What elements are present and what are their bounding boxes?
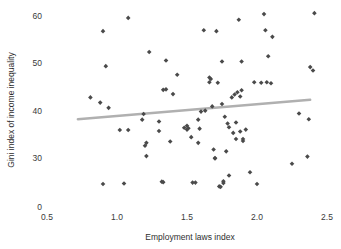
data-point — [255, 182, 260, 187]
data-point — [290, 161, 295, 166]
data-point — [118, 128, 123, 133]
data-point — [126, 128, 131, 133]
data-point — [259, 80, 264, 85]
data-point — [220, 59, 225, 64]
data-point — [311, 68, 316, 73]
x-tick-label: 1.0 — [111, 212, 123, 222]
data-point — [263, 28, 268, 33]
data-point — [126, 16, 131, 21]
data-point — [168, 139, 173, 144]
data-point — [305, 154, 310, 159]
data-points-layer — [88, 11, 317, 189]
x-axis-title: Employment laws index — [145, 232, 235, 242]
data-point — [220, 102, 225, 107]
data-point — [101, 29, 106, 34]
data-point — [197, 126, 202, 131]
data-point — [266, 54, 271, 59]
data-point — [248, 170, 253, 175]
y-tick-label: 30 — [33, 153, 43, 163]
data-point — [88, 95, 93, 100]
data-point — [157, 119, 162, 124]
y-axis-title: Gini index of income inequality — [6, 52, 16, 168]
data-point — [106, 106, 111, 111]
data-point — [244, 127, 249, 132]
data-point — [234, 120, 239, 125]
trend-line-layer — [78, 100, 310, 119]
data-point — [189, 135, 194, 140]
data-point — [171, 92, 176, 97]
data-point — [239, 59, 244, 64]
data-point — [211, 147, 216, 152]
data-point — [213, 156, 218, 161]
data-point — [196, 117, 201, 122]
x-tick-label: 2.5 — [321, 212, 333, 222]
data-point — [224, 149, 229, 154]
data-point — [98, 100, 103, 105]
data-point — [312, 11, 317, 16]
x-tick-label: 1.5 — [181, 212, 193, 222]
scatter-chart: 0.51.01.52.02.5 030405060 Employment law… — [0, 0, 341, 249]
data-point — [234, 137, 239, 142]
data-point — [308, 65, 313, 70]
data-point — [216, 80, 221, 85]
data-point — [140, 117, 145, 122]
y-tick-label: 50 — [33, 58, 43, 68]
data-point — [231, 131, 236, 136]
x-tick-label: 2.0 — [251, 212, 263, 222]
data-point — [164, 58, 169, 63]
data-point — [144, 154, 149, 159]
data-point — [202, 28, 207, 33]
data-point — [225, 121, 230, 126]
x-axis-ticks: 0.51.01.52.02.5 — [41, 212, 333, 222]
data-point — [307, 117, 312, 122]
data-point — [297, 111, 302, 116]
y-tick-label: 0 — [37, 202, 42, 212]
data-point — [238, 129, 243, 134]
data-point — [227, 125, 232, 130]
data-point — [214, 29, 219, 34]
data-point — [164, 87, 169, 92]
trend-line — [78, 100, 310, 119]
data-point — [122, 181, 127, 186]
data-point — [175, 72, 180, 77]
data-point — [223, 115, 228, 120]
data-point — [147, 50, 152, 55]
x-tick-label: 0.5 — [41, 212, 53, 222]
data-point — [101, 182, 106, 187]
data-point — [239, 88, 244, 93]
y-tick-label: 60 — [33, 11, 43, 21]
data-point — [262, 12, 267, 17]
data-point — [193, 180, 198, 185]
data-point — [252, 80, 257, 85]
data-point — [196, 141, 201, 146]
data-point — [238, 94, 243, 99]
data-point — [230, 95, 235, 100]
data-point — [237, 17, 242, 22]
data-point — [269, 81, 274, 86]
data-point — [227, 173, 232, 178]
y-tick-label: 40 — [33, 106, 43, 116]
plot-svg: 0.51.01.52.02.5 030405060 Employment law… — [0, 0, 341, 249]
data-point — [157, 129, 162, 134]
y-axis-ticks: 030405060 — [33, 11, 43, 212]
data-point — [265, 80, 270, 85]
data-point — [270, 35, 275, 40]
data-point — [104, 64, 109, 69]
